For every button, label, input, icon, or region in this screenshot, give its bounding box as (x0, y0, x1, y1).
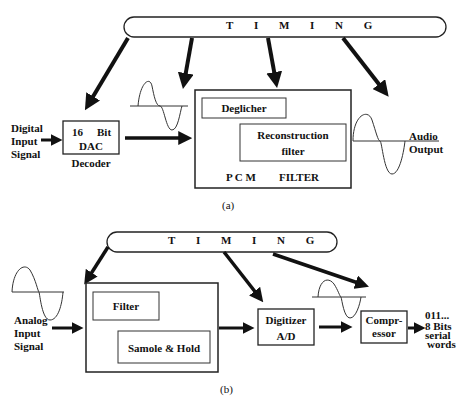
audio-output-label-line1: Audio (409, 130, 438, 142)
digital-input-label-line3: Signal (11, 148, 40, 160)
dac-label-bit: Bit (97, 126, 111, 138)
digitizer-label: Digitizer (258, 314, 314, 326)
filter-label: FILTER (279, 171, 319, 183)
timing-arrow-to-dac (88, 38, 128, 105)
compressor-label-line1: Compr- (361, 314, 407, 326)
analog-input-label-line1: Analog (14, 314, 48, 326)
decoder-label: Decoder (60, 157, 122, 169)
digital-input-label-line1: Digital (11, 122, 43, 134)
analog-input-label-line3: Signal (14, 340, 43, 352)
dac-label-16: 16 (72, 126, 83, 138)
sample-hold-label: Samole & Hold (118, 342, 210, 354)
timing-arrow-to-compressor (273, 254, 364, 285)
figure-b (12, 232, 421, 372)
audio-output-label-line2: Output (409, 143, 443, 155)
reconstruction-label-line1: Reconstruction (240, 129, 346, 141)
sine-wave-output (353, 114, 405, 174)
output-bits-label-line4: words (427, 338, 456, 350)
reconstruction-label-line2: filter (240, 145, 346, 157)
dac-label: DAC (63, 140, 119, 152)
ad-label: A/D (258, 330, 314, 342)
timing-label-a: T I M I N G (226, 19, 381, 31)
timing-arrow-to-pcm (268, 38, 276, 82)
deglicher-label: Deglicher (202, 102, 286, 114)
caption-a: (a) (222, 199, 234, 211)
digital-input-label-line2: Input (11, 135, 37, 147)
analog-input-label-line2: Input (14, 327, 40, 339)
timing-arrow-to-filter (87, 247, 108, 280)
timing-arrow-to-waveform (184, 38, 192, 83)
pcm-label: P C M (226, 171, 256, 183)
sine-wave-b-mid (318, 280, 361, 318)
sine-wave-input-b (12, 267, 63, 320)
timing-arrow-to-output (343, 38, 385, 92)
filter-block-label: Filter (93, 300, 159, 312)
timing-arrow-to-digitizer (224, 252, 260, 298)
timing-label-b: T I M I N G (168, 234, 323, 246)
compressor-label-line2: essor (361, 327, 407, 339)
caption-b: (b) (220, 383, 233, 395)
